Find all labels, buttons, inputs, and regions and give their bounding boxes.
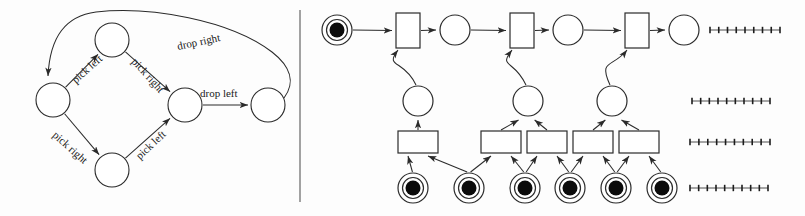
transition-top-2[interactable] (625, 13, 649, 48)
petri-net-diagram (322, 13, 780, 203)
arc-bottomplace-to-midtransition-8 (617, 156, 629, 172)
arc-bottomplace-to-midtransition-2 (471, 156, 491, 172)
arc-midplace-to-toptransition-2 (606, 50, 627, 85)
place-bottom-3-token (563, 181, 578, 196)
arc-midplace-to-toptransition-0 (393, 50, 416, 85)
transition-top-1[interactable] (510, 13, 534, 48)
state-node-s4[interactable] (251, 88, 285, 122)
transition-mid-1[interactable] (481, 131, 521, 153)
place-bottom-4-token (609, 181, 624, 196)
arc-bottomplace-to-midtransition-5 (557, 156, 569, 172)
state-node-s3[interactable] (168, 88, 202, 122)
transition-system-diagram: pick leftpick rightpick rightpick leftdr… (36, 11, 290, 187)
edge-label-drop-right: drop right (176, 31, 221, 52)
transition-mid-2[interactable] (527, 131, 567, 153)
edge-label-pick-left-upper: pick left (69, 52, 104, 85)
figure-canvas: pick leftpick rightpick rightpick leftdr… (0, 0, 805, 216)
arc-bottomplace-to-midtransition-9 (649, 156, 661, 172)
place-top-2[interactable] (553, 15, 583, 45)
arc-midplace-to-toptransition-1 (507, 50, 526, 85)
arc-place-to-transition-top-1 (471, 30, 506, 31)
place-bottom-0-token (406, 181, 421, 196)
place-mid-2[interactable] (597, 86, 627, 116)
edge-label-drop-left: drop left (200, 87, 238, 99)
edge-drop-right (48, 11, 290, 98)
arc-bottomplace-to-midtransition-7 (603, 156, 615, 172)
arc-midtransition-to-midplace-2 (535, 120, 547, 130)
state-node-s2[interactable] (95, 153, 129, 187)
place-mid-0[interactable] (403, 86, 433, 116)
arc-bottomplace-to-midtransition-6 (571, 156, 583, 172)
arc-place-to-transition-top-2 (584, 30, 621, 31)
edge-label-pick-right-upper: pick right (130, 55, 167, 95)
place-bottom-2-token (518, 181, 533, 196)
arc-bottomplace-to-midtransition-1 (428, 156, 467, 172)
arc-midtransition-to-midplace-1 (501, 120, 519, 130)
place-top-0-token (330, 23, 345, 38)
edge-label-pick-right-lower: pick right (51, 129, 91, 166)
state-node-s1[interactable] (95, 23, 129, 57)
transition-mid-3[interactable] (573, 131, 613, 153)
figure-root: pick leftpick rightpick rightpick leftdr… (0, 0, 805, 216)
transition-mid-4[interactable] (619, 131, 659, 153)
arc-midtransition-to-midplace-4 (621, 120, 639, 130)
arc-transition-to-place-top-2 (650, 30, 665, 31)
place-top-3[interactable] (669, 15, 699, 45)
arc-place-to-transition-top-0 (353, 30, 392, 31)
edge-label-pick-left-lower: pick left (133, 128, 168, 162)
place-mid-1[interactable] (513, 86, 543, 116)
transition-mid-0[interactable] (398, 131, 438, 153)
arc-bottomplace-to-midtransition-3 (511, 156, 524, 172)
place-bottom-1-token (462, 181, 477, 196)
state-node-s0[interactable] (36, 83, 70, 117)
arc-bottomplace-to-midtransition-0 (408, 156, 412, 172)
arc-midtransition-to-midplace-3 (593, 120, 605, 130)
arc-bottomplace-to-midtransition-4 (526, 156, 537, 172)
arc-transition-to-place-top-1 (535, 30, 549, 31)
place-top-1[interactable] (440, 15, 470, 45)
arc-transition-to-place-top-0 (421, 30, 436, 31)
place-bottom-5-token (655, 181, 670, 196)
transition-top-0[interactable] (396, 13, 420, 48)
